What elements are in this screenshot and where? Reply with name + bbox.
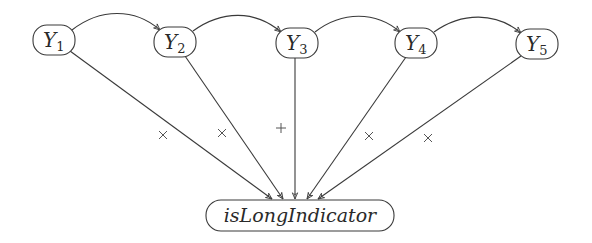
edge-y1-y2 <box>72 14 160 31</box>
node-y2: Y2 <box>154 27 196 57</box>
node-y1: Y1 <box>33 25 75 55</box>
node-is-long-indicator: isLongIndicator <box>206 200 394 231</box>
sign-times-icon <box>424 134 432 142</box>
sign-plus-icon <box>276 123 286 133</box>
sign-times-icon <box>365 132 373 140</box>
edge-y4-y5 <box>434 17 521 33</box>
edge-y3-y4 <box>315 16 400 32</box>
edge-y1-target <box>70 51 272 199</box>
node-y4: Y4 <box>395 28 437 58</box>
node-y5: Y5 <box>516 29 558 59</box>
diagram-canvas: Y1 Y2 Y3 Y4 Y5 isLongIndicator <box>0 0 592 243</box>
sign-times-icon <box>218 129 226 137</box>
sign-times-icon <box>159 131 167 139</box>
edge-y2-target <box>185 56 283 199</box>
node-is-long-indicator-label: isLongIndicator <box>224 204 378 226</box>
edge-y2-y3 <box>193 15 281 32</box>
node-y3: Y3 <box>276 28 318 58</box>
influence-edges <box>70 51 521 199</box>
edge-y5-target <box>318 56 521 199</box>
edge-y4-target <box>307 57 406 199</box>
